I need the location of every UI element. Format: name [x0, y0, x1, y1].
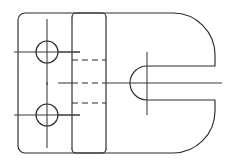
center-rib-bottom-cap — [72, 149, 106, 153]
center-rib-top-cap — [72, 13, 106, 17]
front-view-drawing — [0, 0, 232, 166]
technical-drawing-canvas — [0, 0, 232, 166]
